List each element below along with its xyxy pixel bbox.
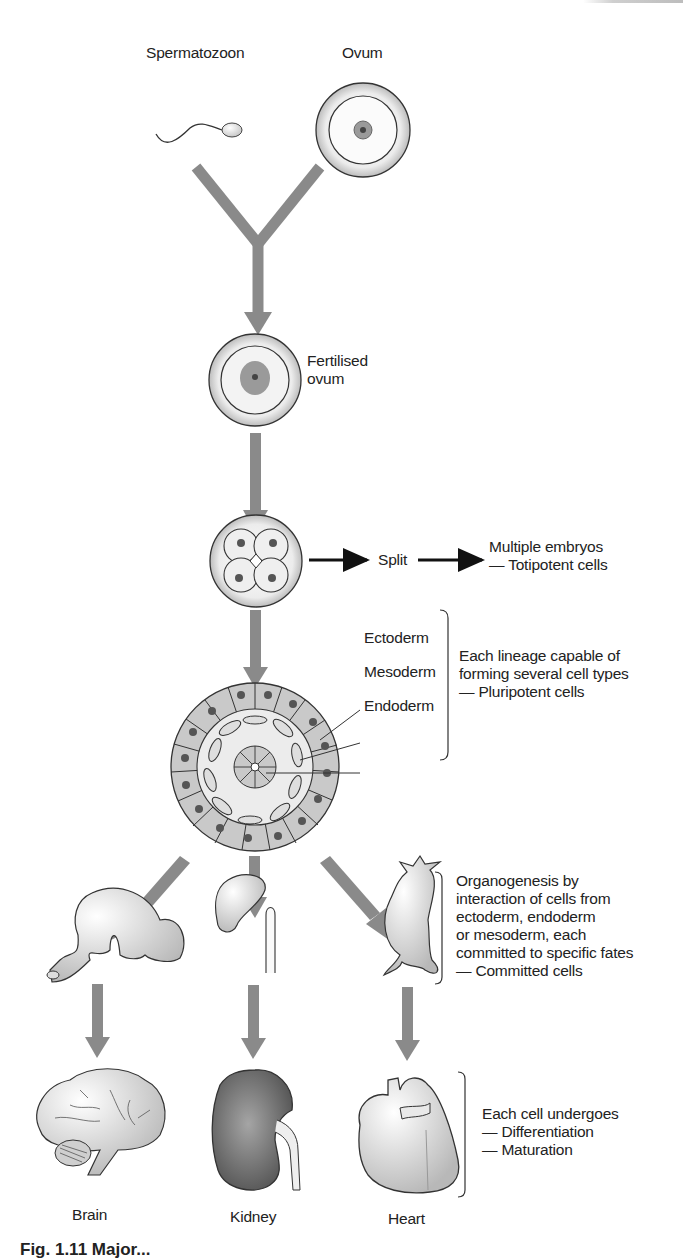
four-cell-embryo-icon [210, 515, 302, 607]
label-totipotent: — Totipotent cells [489, 556, 607, 574]
gastrula-icon [171, 683, 339, 851]
note-line: Each cell undergoes [482, 1105, 619, 1123]
ovum-icon [316, 83, 410, 177]
fertilised-ovum-icon [209, 334, 301, 426]
brain-icon [37, 1069, 165, 1175]
note-line: committed to specific fates [456, 944, 633, 962]
arrow-down [250, 433, 261, 513]
label-fertilised-ovum-1: Fertilised [307, 352, 368, 370]
label-kidney: Kidney [230, 1208, 276, 1226]
figure-caption: Fig. 1.11 Major... [20, 1240, 150, 1260]
early-brain-icon [47, 888, 184, 982]
note-line: — Maturation [482, 1141, 619, 1159]
label-endoderm: Endoderm [364, 697, 434, 715]
note-pluripotent: Each lineage capable of forming several … [459, 647, 629, 701]
label-fertilised-ovum-2: ovum [307, 370, 344, 388]
note-line: interaction of cells from [456, 890, 633, 908]
note-line: Each lineage capable of [459, 647, 629, 665]
kidney-icon [212, 1070, 300, 1190]
label-split: Split [378, 551, 407, 569]
note-differentiation: Each cell undergoes — Differentiation — … [482, 1105, 619, 1159]
label-ovum: Ovum [342, 44, 383, 62]
note-line: forming several cell types [459, 665, 629, 683]
early-kidney-icon [216, 875, 275, 973]
spermatozoon-icon [156, 123, 242, 142]
label-heart: Heart [388, 1210, 425, 1228]
heart-icon [359, 1078, 459, 1193]
label-spermatozoon: Spermatozoon [146, 44, 244, 62]
note-committed: Organogenesis by interaction of cells fr… [456, 872, 633, 980]
note-line: or mesoderm, each [456, 926, 633, 944]
note-line: — Differentiation [482, 1123, 619, 1141]
label-brain: Brain [72, 1206, 107, 1224]
note-line: — Committed cells [456, 962, 633, 980]
label-mesoderm: Mesoderm [364, 663, 436, 681]
label-ectoderm: Ectoderm [364, 629, 429, 647]
label-multiple-embryos: Multiple embryos [489, 538, 603, 556]
note-line: — Pluripotent cells [459, 683, 629, 701]
note-line: ectoderm, endoderm [456, 908, 633, 926]
merge-arrow [196, 167, 320, 315]
note-line: Organogenesis by [456, 872, 633, 890]
early-heart-icon [384, 856, 440, 975]
